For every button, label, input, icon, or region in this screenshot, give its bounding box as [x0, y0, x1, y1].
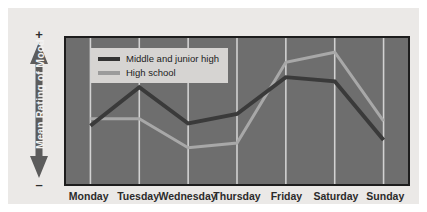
- x-axis-tick-label: Monday: [69, 190, 109, 202]
- legend-item-high-school: High school: [98, 67, 219, 78]
- y-axis-label: Mean Rating of Mood: [34, 27, 46, 161]
- x-axis-tick-label: Sunday: [366, 190, 404, 202]
- legend-item-middle-and-junior-high: Middle and junior high: [98, 53, 219, 64]
- x-axis-tick-label: Thursday: [213, 190, 260, 202]
- legend: Middle and junior high High school: [91, 48, 228, 83]
- figure-panel: + Mean Rating of Mood – Middle and junio…: [8, 8, 419, 204]
- x-axis-tick-label: Wednesday: [158, 190, 216, 202]
- legend-label-high-school: High school: [126, 67, 176, 78]
- x-axis-tick-labels: MondayTuesdayWednesdayThursdayFridaySatu…: [64, 190, 410, 208]
- y-axis-negative-sign: –: [22, 180, 56, 190]
- legend-swatch-icon-light: [98, 71, 120, 75]
- x-axis-tick-label: Friday: [271, 190, 303, 202]
- legend-label-middle-and-junior-high: Middle and junior high: [126, 53, 219, 64]
- chart-screenshot: + Mean Rating of Mood – Middle and junio…: [0, 0, 427, 212]
- x-axis-tick-label: Tuesday: [117, 190, 159, 202]
- y-axis: + Mean Rating of Mood –: [22, 30, 56, 190]
- legend-swatch-icon-dark: [98, 57, 120, 61]
- x-axis-tick-label: Saturday: [313, 190, 358, 202]
- plot-area: Middle and junior high High school: [64, 36, 410, 186]
